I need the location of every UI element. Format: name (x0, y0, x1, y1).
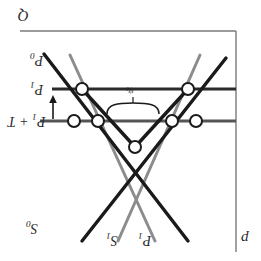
black-branch-descending (82, 58, 226, 241)
transition-arrow-head (49, 95, 57, 103)
diagram-svg (0, 0, 261, 261)
node-right-b (190, 115, 202, 127)
black-branch-ascending (44, 54, 188, 241)
branch-label-s0: S0 (26, 219, 38, 235)
branch-label-p1: P1 (138, 231, 151, 247)
gap-brace-path (107, 103, 159, 114)
branch-label-s1: S1 (106, 231, 118, 247)
level-label-p0: P0 (30, 51, 43, 67)
node-right-a (166, 115, 178, 127)
node-left-a (68, 115, 80, 127)
transition-arrow (49, 95, 57, 119)
axis-label-horizontal: p (241, 231, 249, 246)
level-label-p1-plus-t: P1 + T (8, 112, 45, 128)
gap-brace (107, 97, 159, 114)
node-center (129, 141, 141, 153)
level-label-p1: P1 (30, 80, 43, 96)
figure-canvas: Q p P0 P1 P1 + T S0 S1 P1 ψ0 (0, 0, 261, 261)
node-left-upper (76, 83, 88, 95)
node-left-b (92, 115, 104, 127)
gap-annotation-label: ψ0 (126, 86, 134, 95)
node-right-upper (182, 83, 194, 95)
axis-label-vertical: Q (18, 8, 29, 23)
